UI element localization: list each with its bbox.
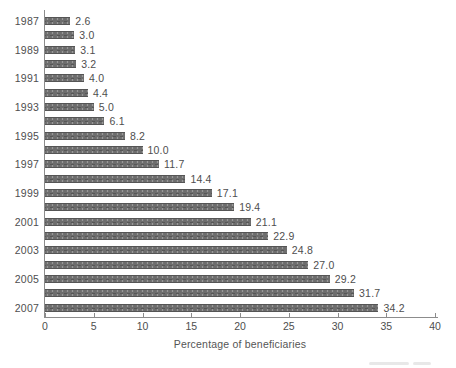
bar-value-label: 3.0 bbox=[79, 29, 94, 41]
chart-bar-row: 200121.1 bbox=[45, 215, 435, 229]
chart-bar-row: 14.4 bbox=[45, 172, 435, 186]
bar bbox=[45, 146, 143, 154]
bar-value-label: 24.8 bbox=[292, 244, 313, 256]
bar-value-label: 2.6 bbox=[75, 15, 90, 27]
bar bbox=[45, 103, 94, 111]
x-tick bbox=[289, 313, 290, 317]
bar-value-label: 19.4 bbox=[239, 201, 260, 213]
bar bbox=[45, 46, 75, 54]
chart-bar-row: 4.4 bbox=[45, 86, 435, 100]
bar bbox=[45, 275, 330, 283]
bar-value-label: 4.4 bbox=[93, 87, 108, 99]
x-tick bbox=[45, 313, 46, 317]
chart-bar-row: 199917.1 bbox=[45, 186, 435, 200]
bar bbox=[45, 31, 74, 39]
year-label: 1997 bbox=[15, 158, 39, 170]
bar-value-label: 6.1 bbox=[109, 115, 124, 127]
x-tick bbox=[435, 313, 436, 317]
bar-value-label: 11.7 bbox=[164, 158, 184, 170]
chart-bar-row: 200529.2 bbox=[45, 272, 435, 286]
chart-bar-row: 19872.6 bbox=[45, 14, 435, 28]
bar-value-label: 5.0 bbox=[99, 101, 114, 113]
bar bbox=[45, 132, 125, 140]
bar bbox=[45, 89, 88, 97]
chart-bar-row: 6.1 bbox=[45, 114, 435, 128]
year-label: 1989 bbox=[15, 44, 39, 56]
x-tick-label: 15 bbox=[185, 320, 197, 332]
chart-bar-row: 19914.0 bbox=[45, 71, 435, 85]
chart-bar-row: 199711.7 bbox=[45, 157, 435, 171]
bar-value-label: 3.1 bbox=[80, 44, 95, 56]
bar-value-label: 31.7 bbox=[359, 287, 380, 299]
bar-value-label: 21.1 bbox=[256, 216, 277, 228]
chart-bar-row: 200324.8 bbox=[45, 243, 435, 257]
bar bbox=[45, 203, 234, 211]
bar-chart-figure: 19872.63.019893.13.219914.04.419935.06.1… bbox=[0, 0, 456, 368]
chart-bar-row: 22.9 bbox=[45, 229, 435, 243]
year-label: 1993 bbox=[15, 101, 39, 113]
bar bbox=[45, 17, 70, 25]
bar bbox=[45, 60, 76, 68]
x-tick-label: 0 bbox=[42, 320, 48, 332]
x-tick bbox=[143, 313, 144, 317]
x-tick-label: 10 bbox=[137, 320, 149, 332]
chart-bar-row: 27.0 bbox=[45, 258, 435, 272]
chart-bar-row: 31.7 bbox=[45, 286, 435, 300]
x-axis: 0510152025303540 bbox=[45, 317, 435, 337]
x-tick-label: 30 bbox=[332, 320, 344, 332]
chart-bar-row: 3.2 bbox=[45, 57, 435, 71]
bar-value-label: 3.2 bbox=[81, 58, 96, 70]
bar-value-label: 17.1 bbox=[217, 187, 238, 199]
chart-bar-row: 19.4 bbox=[45, 200, 435, 214]
bar-value-label: 14.4 bbox=[190, 173, 211, 185]
x-tick bbox=[240, 313, 241, 317]
year-label: 1999 bbox=[15, 187, 39, 199]
bar bbox=[45, 261, 308, 269]
x-axis-title: Percentage of beneficiaries bbox=[45, 338, 435, 350]
bar-value-label: 4.0 bbox=[89, 72, 104, 84]
bar bbox=[45, 232, 268, 240]
bar bbox=[45, 218, 251, 226]
x-tick bbox=[386, 313, 387, 317]
bar-value-label: 34.2 bbox=[383, 302, 404, 314]
year-label: 1987 bbox=[15, 15, 39, 27]
chart-bar-row: 3.0 bbox=[45, 28, 435, 42]
bar bbox=[45, 117, 104, 125]
bar-value-label: 22.9 bbox=[273, 230, 294, 242]
chart-bar-row: 19893.1 bbox=[45, 43, 435, 57]
year-label: 2001 bbox=[15, 216, 39, 228]
year-label: 2005 bbox=[15, 273, 39, 285]
year-label: 1995 bbox=[15, 130, 39, 142]
bar bbox=[45, 74, 84, 82]
year-label: 1991 bbox=[15, 72, 39, 84]
x-tick-label: 20 bbox=[234, 320, 246, 332]
bar-value-label: 27.0 bbox=[313, 259, 334, 271]
chart-bar-row: 19958.2 bbox=[45, 129, 435, 143]
bar bbox=[45, 189, 212, 197]
x-tick bbox=[338, 313, 339, 317]
bar bbox=[45, 175, 185, 183]
year-label: 2007 bbox=[15, 302, 39, 314]
bar bbox=[45, 289, 354, 297]
x-tick-label: 35 bbox=[380, 320, 392, 332]
x-tick-label: 25 bbox=[283, 320, 295, 332]
bar bbox=[45, 304, 378, 312]
x-tick-label: 5 bbox=[91, 320, 97, 332]
bar-value-label: 10.0 bbox=[148, 144, 169, 156]
x-tick bbox=[191, 313, 192, 317]
bar bbox=[45, 160, 159, 168]
plot-area: 19872.63.019893.13.219914.04.419935.06.1… bbox=[45, 14, 435, 315]
scan-artifact bbox=[369, 362, 409, 365]
bar-value-label: 8.2 bbox=[130, 130, 145, 142]
x-tick-label: 40 bbox=[429, 320, 441, 332]
year-label: 2003 bbox=[15, 244, 39, 256]
bar-value-label: 29.2 bbox=[335, 273, 356, 285]
x-tick bbox=[94, 313, 95, 317]
scan-artifact bbox=[413, 362, 431, 365]
chart-bar-row: 10.0 bbox=[45, 143, 435, 157]
chart-bar-row: 19935.0 bbox=[45, 100, 435, 114]
bar bbox=[45, 246, 287, 254]
